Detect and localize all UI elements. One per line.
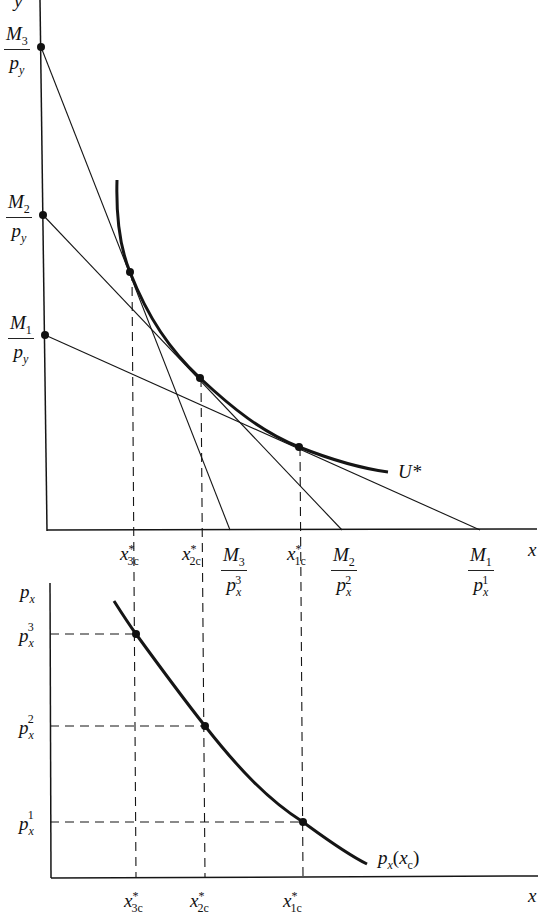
tangency-point-2 — [196, 374, 204, 382]
demand-point-2 — [201, 722, 209, 730]
upper-y-axis — [40, 0, 47, 531]
point-m3-intercept — [37, 43, 45, 51]
lower-x-axis-label: x — [528, 886, 536, 905]
y-tick-m2-over-py: M2 py — [6, 192, 32, 244]
compensated-demand-curve — [114, 601, 367, 864]
tangency-point-3 — [126, 268, 134, 276]
x-tick-m1-over-px1: M1 px1 — [468, 545, 494, 598]
point-m2-intercept — [39, 211, 47, 219]
x-tick-x2c-lower: x*2c — [190, 890, 209, 914]
demand-point-1 — [299, 818, 307, 826]
x-tick-m2-over-px2: M2 px2 — [331, 545, 357, 598]
x-tick-x1c-upper: x*1c — [287, 543, 306, 567]
lower-x-axis — [51, 876, 538, 878]
x-tick-x2c-upper: x*2c — [182, 543, 201, 567]
dash-x2c — [201, 378, 205, 877]
y-tick-px3: px3 — [19, 625, 34, 649]
upper-x-axis — [47, 529, 537, 530]
x-tick-x3c-lower: x*3c — [124, 890, 143, 914]
dash-x1c — [300, 447, 303, 877]
budget-line-m1 — [45, 335, 480, 530]
diagram-canvas — [0, 0, 543, 921]
demand-curve-label: px(xc) — [378, 848, 419, 871]
y-tick-px2: px2 — [19, 717, 34, 741]
dash-x3c — [132, 272, 136, 877]
curve-label-u-star: U* — [398, 462, 421, 481]
lower-y-axis — [50, 583, 51, 878]
y-tick-px1: px1 — [19, 813, 34, 837]
y-tick-m3-over-py: M3 py — [4, 24, 30, 76]
x-tick-x1c-lower: x*1c — [283, 890, 302, 914]
upper-y-axis-label: y — [14, 0, 22, 10]
point-m1-intercept — [41, 331, 49, 339]
demand-point-3 — [132, 630, 140, 638]
lower-y-axis-label: px — [20, 582, 35, 605]
x-tick-m3-over-px3: M3 px3 — [221, 545, 247, 598]
upper-x-axis-label: x — [528, 540, 536, 559]
tangency-point-1 — [295, 443, 303, 451]
y-tick-m1-over-py: M1 py — [8, 313, 34, 365]
x-tick-x3c-upper: x*3c — [120, 543, 139, 567]
